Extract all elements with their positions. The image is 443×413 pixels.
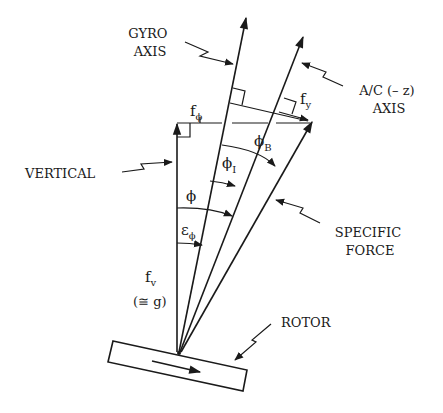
eps-phi-arc <box>177 243 202 245</box>
gyro-perpendicular <box>230 103 308 121</box>
phi-label: ϕ <box>186 187 196 205</box>
ac-axis-leader <box>302 63 343 86</box>
right-angle-marker-gyro <box>233 88 245 105</box>
phi-I-arc <box>210 181 235 186</box>
phi-I-label: ϕI <box>222 154 236 175</box>
gyro-axis-leader <box>185 42 233 64</box>
ac-axis-vector <box>180 37 303 352</box>
fy-vector <box>279 112 308 120</box>
gyro-geometry-diagram: GYRO AXIS A/C (– z) AXIS VERTICAL SPECIF… <box>0 0 443 413</box>
f-phi-label: fϕ <box>190 102 203 122</box>
specific-force-label: SPECIFIC FORCE <box>335 225 405 258</box>
rotor-label: ROTOR <box>281 315 332 330</box>
gyro-axis-label: GYRO AXIS <box>128 26 171 59</box>
specific-force-leader <box>276 200 320 223</box>
right-angle-marker-vertical <box>177 123 190 137</box>
vertical-label: VERTICAL <box>24 166 96 181</box>
approx-g-label: (≅ g) <box>133 294 167 309</box>
vertical-leader <box>122 162 172 172</box>
ac-axis-label: A/C (– z) AXIS <box>358 83 419 116</box>
phi-arc <box>177 208 232 216</box>
rotor-direction-arrow <box>152 361 200 372</box>
eps-phi-label: εϕ <box>181 221 196 241</box>
right-angle-marker-ac <box>284 98 296 114</box>
f-v-label: fv <box>145 268 157 288</box>
gyro-axis-vector <box>179 18 246 352</box>
rotor-leader <box>235 324 271 360</box>
f-y-label: fy <box>300 90 312 110</box>
phi-B-label: ϕB <box>254 132 272 153</box>
